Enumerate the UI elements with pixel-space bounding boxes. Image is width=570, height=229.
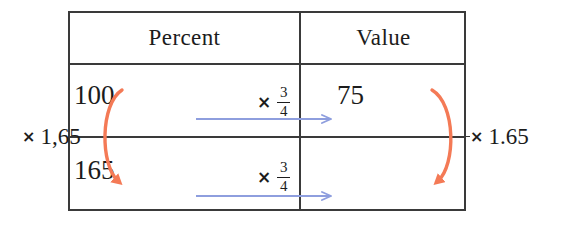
operator-times-1-65-right: × 1.65 xyxy=(470,124,529,150)
middle-connector-line xyxy=(98,136,470,137)
factor-value-left: 1,65 xyxy=(40,124,80,150)
header-separator-rule xyxy=(70,63,464,65)
proportion-table-diagram: Percent Value 100 75 165 × 3 4 × 3 4 × 1… xyxy=(0,0,570,229)
multiplication-sign-icon: × xyxy=(257,169,271,186)
column-header-value: Value xyxy=(299,13,468,63)
cell-value-row1: 75 xyxy=(337,80,364,111)
fraction-three-quarters: 3 4 xyxy=(277,160,290,194)
factor-value-right: 1.65 xyxy=(488,124,528,150)
operator-times-three-quarters-row2: × 3 4 xyxy=(257,160,290,194)
column-header-percent: Percent xyxy=(70,13,299,63)
cell-percent-row2: 165 xyxy=(74,155,115,186)
fraction-denominator: 4 xyxy=(278,179,290,195)
multiplication-sign-icon: × xyxy=(257,94,271,111)
fraction-three-quarters: 3 4 xyxy=(277,85,290,119)
fraction-denominator: 4 xyxy=(278,104,290,120)
fraction-numerator: 3 xyxy=(278,85,290,101)
cell-percent-row1: 100 xyxy=(74,80,115,111)
operator-times-1-65-left: × 1,65 xyxy=(22,124,81,150)
multiplication-sign-icon: × xyxy=(470,127,483,146)
operator-times-three-quarters-row1: × 3 4 xyxy=(257,85,290,119)
fraction-numerator: 3 xyxy=(278,160,290,176)
multiplication-sign-icon: × xyxy=(22,127,35,146)
